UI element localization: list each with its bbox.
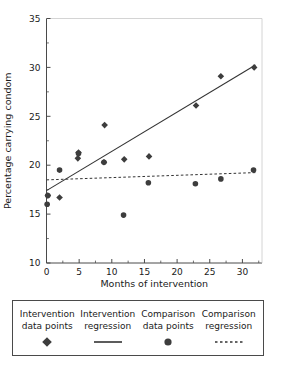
diamond-marker-icon: [41, 337, 53, 347]
chart-legend: Intervention data points Intervention re…: [12, 300, 264, 356]
legend-label-line1: Comparison: [141, 309, 195, 321]
legend-label-line2: regression: [205, 321, 252, 333]
y-axis-title: Percentage carrying condom: [2, 72, 13, 209]
y-tick-label: 10: [29, 258, 41, 268]
comparison-data-point: [45, 193, 51, 199]
legend-label-line2: regression: [84, 321, 131, 333]
legend-label-line1: Intervention: [80, 309, 135, 321]
x-tick-label: 25: [204, 267, 215, 277]
legend-item-intervention-data-points: Intervention data points: [17, 309, 78, 347]
intervention-data-point: [251, 64, 258, 71]
x-tick-label: 20: [171, 267, 183, 277]
intervention-data-point: [193, 102, 200, 109]
comparison-data-point: [121, 212, 127, 218]
legend-item-comparison-regression: Comparison regression: [199, 309, 260, 347]
comparison-data-point: [146, 180, 152, 186]
figure-container: 101520253035051015202530Months of interv…: [0, 0, 281, 368]
legend-item-comparison-data-points: Comparison data points: [138, 309, 199, 347]
comparison-data-point: [44, 202, 50, 208]
legend-label-line2: data points: [143, 321, 194, 333]
intervention-data-point: [218, 73, 225, 80]
intervention-data-point: [56, 194, 63, 201]
comparison-data-point: [76, 151, 82, 157]
intervention-data-point: [101, 122, 108, 129]
comparison-regression-line: [47, 173, 258, 180]
x-tick-label: 15: [139, 267, 150, 277]
x-tick-label: 0: [44, 267, 50, 277]
legend-label-line1: Comparison: [202, 309, 256, 321]
comparison-data-point: [101, 159, 107, 165]
intervention-regression-line: [47, 65, 256, 191]
comparison-data-point: [57, 167, 63, 173]
intervention-data-point: [121, 156, 128, 163]
x-axis-title: Months of intervention: [100, 278, 208, 289]
y-tick-label: 15: [29, 209, 40, 219]
legend-item-intervention-regression: Intervention regression: [78, 309, 139, 347]
chart-plot-area: 101520253035051015202530Months of interv…: [0, 0, 281, 292]
comparison-data-point: [218, 176, 224, 182]
y-tick-label: 20: [29, 160, 41, 170]
x-tick-label: 30: [237, 267, 249, 277]
scatter-chart: 101520253035051015202530Months of interv…: [0, 0, 281, 292]
y-tick-label: 30: [29, 63, 41, 73]
legend-label-line1: Intervention: [20, 309, 75, 321]
y-tick-label: 25: [29, 112, 40, 122]
intervention-data-point: [146, 153, 153, 160]
solid-line-marker-icon: [93, 337, 123, 347]
dashed-line-marker-icon: [214, 337, 244, 347]
x-tick-label: 10: [106, 267, 118, 277]
comparison-data-point: [193, 181, 199, 187]
circle-marker-icon: [162, 337, 174, 347]
y-tick-label: 35: [29, 14, 40, 24]
x-tick-label: 5: [76, 267, 82, 277]
legend-label-line2: data points: [22, 321, 73, 333]
legend-grid: Intervention data points Intervention re…: [13, 301, 263, 355]
comparison-data-point: [251, 167, 257, 173]
